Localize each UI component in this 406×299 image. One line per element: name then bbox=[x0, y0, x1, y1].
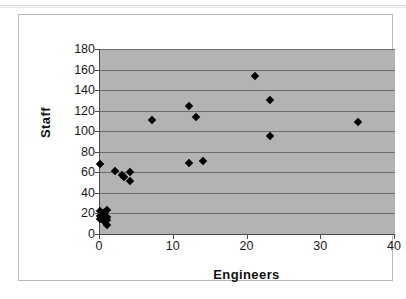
data-point bbox=[199, 157, 207, 165]
data-point bbox=[251, 71, 259, 79]
y-axis-tick-label: 0 bbox=[51, 228, 95, 241]
x-axis-title: Engineers bbox=[99, 267, 394, 282]
data-point bbox=[265, 96, 273, 104]
page-scan-artifact-line-secondary bbox=[0, 7, 406, 8]
gridline-horizontal bbox=[100, 131, 395, 132]
y-axis-tick-mark bbox=[95, 213, 99, 214]
y-axis-tick-labels: 020406080100120140160180 bbox=[45, 49, 95, 234]
x-axis-tick-label: 40 bbox=[374, 240, 406, 253]
x-axis-tick-mark bbox=[173, 235, 174, 239]
x-axis-tick-labels: 010203040 bbox=[99, 240, 394, 258]
data-point bbox=[265, 132, 273, 140]
x-axis-tick-mark bbox=[99, 235, 100, 239]
y-axis-tick-mark bbox=[95, 90, 99, 91]
y-axis-tick-label: 80 bbox=[51, 146, 95, 159]
data-point bbox=[103, 221, 111, 229]
data-point bbox=[96, 160, 104, 168]
y-axis-tick-label: 120 bbox=[51, 104, 95, 117]
y-axis-tick-mark bbox=[95, 49, 99, 50]
x-axis-tick-label: 10 bbox=[153, 240, 193, 253]
y-axis-tick-mark bbox=[95, 152, 99, 153]
page-scan-artifact-line bbox=[0, 5, 406, 6]
gridline-horizontal bbox=[100, 152, 395, 153]
y-axis-tick-label: 20 bbox=[51, 207, 95, 220]
y-axis-tick-mark bbox=[95, 70, 99, 71]
y-axis-tick-label: 180 bbox=[51, 43, 95, 56]
y-axis-tick-label: 160 bbox=[51, 63, 95, 76]
gridline-horizontal bbox=[100, 70, 395, 71]
y-axis-tick-label: 40 bbox=[51, 187, 95, 200]
chart-frame: Staff 020406080100120140160180 010203040… bbox=[18, 14, 393, 281]
x-axis-tick-label: 30 bbox=[300, 240, 340, 253]
data-point bbox=[354, 118, 362, 126]
y-axis-tick-mark bbox=[95, 111, 99, 112]
x-axis-tick-mark bbox=[320, 235, 321, 239]
data-point bbox=[184, 159, 192, 167]
x-axis-tick-mark bbox=[247, 235, 248, 239]
plot-area bbox=[99, 49, 395, 235]
gridline-horizontal bbox=[100, 172, 395, 173]
gridline-horizontal bbox=[100, 193, 395, 194]
data-point bbox=[147, 116, 155, 124]
gridline-horizontal bbox=[100, 213, 395, 214]
gridline-horizontal bbox=[100, 111, 395, 112]
x-axis-tick-label: 0 bbox=[79, 240, 119, 253]
y-axis-tick-label: 140 bbox=[51, 84, 95, 97]
data-point bbox=[184, 101, 192, 109]
y-axis-tick-mark bbox=[95, 172, 99, 173]
y-axis-tick-mark bbox=[95, 193, 99, 194]
y-axis-tick-mark bbox=[95, 131, 99, 132]
y-axis-tick-label: 100 bbox=[51, 125, 95, 138]
gridline-horizontal bbox=[100, 49, 395, 50]
y-axis-tick-label: 60 bbox=[51, 166, 95, 179]
x-axis-tick-mark bbox=[394, 235, 395, 239]
x-axis-tick-label: 20 bbox=[227, 240, 267, 253]
data-point bbox=[192, 113, 200, 121]
gridline-horizontal bbox=[100, 90, 395, 91]
